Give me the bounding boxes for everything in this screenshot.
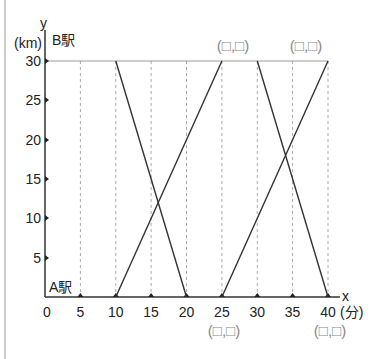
chart-canvas: 30 25 20 15 10 5 0 5 10 15 20 25 30 35 4… — [0, 0, 381, 359]
svg-text:5: 5 — [77, 304, 85, 320]
y-unit-label: (km) — [14, 35, 42, 51]
y-axis-name: y — [40, 15, 47, 31]
svg-text:5: 5 — [33, 250, 41, 266]
svg-text:30: 30 — [250, 304, 266, 320]
svg-text:40: 40 — [320, 304, 336, 320]
svg-text:20: 20 — [25, 132, 41, 148]
b-station-label: B駅 — [52, 32, 75, 48]
x-tick-labels: 0 5 10 15 20 25 30 35 40 — [43, 304, 336, 320]
y-tick-labels: 30 25 20 15 10 5 — [25, 53, 41, 266]
svg-text:35: 35 — [285, 304, 301, 320]
answer-blank-top-2[interactable]: (□,□) — [290, 37, 322, 54]
svg-text:25: 25 — [25, 92, 41, 108]
answer-blank-bottom-2[interactable]: (□,□) — [314, 322, 346, 339]
answer-blank-bottom-1[interactable]: (□,□) — [208, 322, 240, 339]
svg-text:0: 0 — [43, 304, 51, 320]
svg-text:15: 15 — [143, 304, 159, 320]
train-line-2 — [116, 61, 222, 297]
svg-text:10: 10 — [108, 304, 124, 320]
svg-text:30: 30 — [25, 53, 41, 69]
train-line-4 — [222, 61, 328, 297]
svg-text:20: 20 — [179, 304, 195, 320]
svg-text:15: 15 — [25, 171, 41, 187]
a-station-label: A駅 — [49, 279, 72, 295]
answer-blank-top-1[interactable]: (□,□) — [217, 37, 249, 54]
svg-text:10: 10 — [25, 210, 41, 226]
x-axis-name: x — [342, 288, 349, 304]
gridlines — [80, 61, 328, 297]
svg-text:25: 25 — [214, 304, 230, 320]
x-unit-label: (分) — [340, 304, 363, 320]
